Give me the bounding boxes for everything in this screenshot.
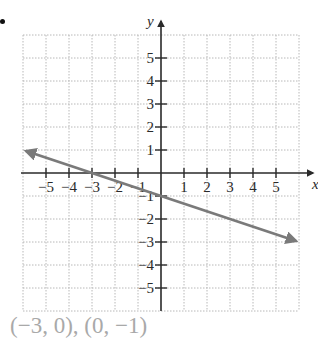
x-tick-label: −3	[84, 179, 100, 195]
coordinate-plane: xy −5−4−3−2−112345−5−4−3−2−112345	[0, 0, 318, 347]
x-axis-label: x	[311, 176, 318, 192]
x-tick-label: 3	[226, 179, 234, 195]
x-tick-label: 4	[249, 179, 257, 195]
y-tick-label: 2	[147, 119, 155, 135]
x-tick-label: 5	[272, 179, 280, 195]
x-tick-label: 1	[180, 179, 188, 195]
intercepts-caption: (−3, 0), (0, −1)	[10, 313, 147, 339]
y-tick-label: −3	[138, 234, 154, 250]
y-tick-label: 3	[147, 96, 155, 112]
y-tick-label: −2	[138, 211, 154, 227]
y-tick-label: −5	[138, 280, 154, 296]
y-tick-label: 1	[147, 142, 155, 158]
x-tick-label: 2	[203, 179, 211, 195]
x-tick-label: −4	[61, 179, 77, 195]
y-tick-label: 5	[147, 50, 155, 66]
y-tick-label: −4	[138, 257, 154, 273]
y-axis-label: y	[145, 13, 154, 29]
y-tick-label: 4	[147, 73, 155, 89]
x-tick-label: −5	[38, 179, 54, 195]
